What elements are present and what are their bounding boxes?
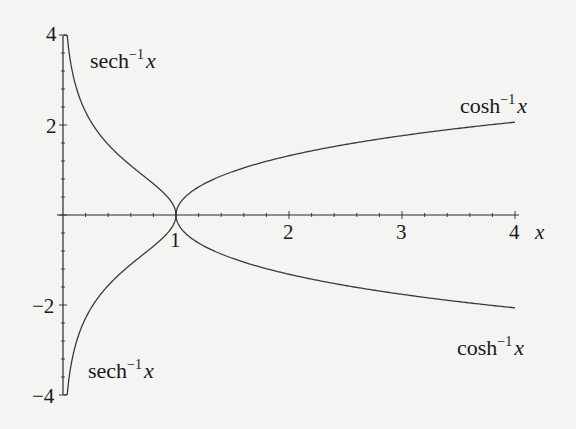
curve-arccosh-upper <box>176 122 515 215</box>
chart-plot-area <box>0 0 576 429</box>
variable: x <box>517 93 527 118</box>
variable: x <box>146 48 156 73</box>
y-tick-label-neg2: −2 <box>32 296 54 317</box>
curve-label-sech-upper: sech−1x <box>90 50 156 72</box>
y-tick-label-2: 2 <box>46 116 57 137</box>
superscript: −1 <box>129 47 144 62</box>
fn-name: cosh <box>460 93 500 118</box>
x-axis-label: x <box>535 222 544 243</box>
x-tick-label-1: 1 <box>170 230 181 251</box>
fn-name: cosh <box>457 335 497 360</box>
x-tick-label-3: 3 <box>396 222 407 243</box>
variable: x <box>514 335 524 360</box>
axes <box>57 35 519 395</box>
curve-arccosh-lower <box>176 215 515 308</box>
y-tick-label-neg4: −4 <box>32 386 54 407</box>
curve-label-sech-lower: sech−1x <box>88 360 154 382</box>
x-tick-label-4: 4 <box>509 222 520 243</box>
fn-name: sech <box>88 358 127 383</box>
y-tick-label-4: 4 <box>46 24 57 45</box>
variable: x <box>144 358 154 383</box>
x-tick-label-2: 2 <box>283 222 294 243</box>
curve-label-cosh-lower: cosh−1x <box>457 337 524 359</box>
superscript: −1 <box>500 92 515 107</box>
superscript: −1 <box>127 357 142 372</box>
curve-label-cosh-upper: cosh−1x <box>460 95 527 117</box>
fn-name: sech <box>90 48 129 73</box>
superscript: −1 <box>497 334 512 349</box>
